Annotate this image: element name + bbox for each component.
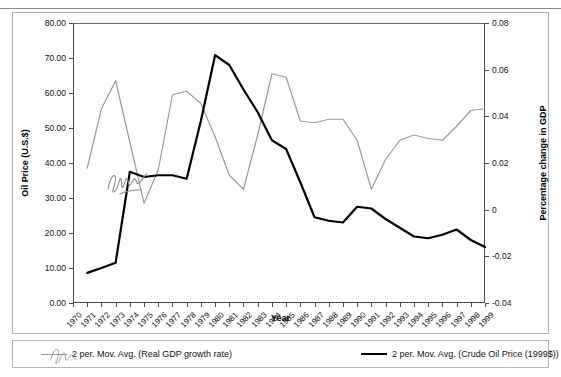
y-axis-left-tick xyxy=(69,128,73,129)
y-axis-right-tick-label: 0 xyxy=(492,205,497,215)
y-axis-right-tick-label: -0.02 xyxy=(492,251,511,261)
y-axis-left-tick-label: 10.00 xyxy=(45,263,66,273)
x-axis-tick xyxy=(386,303,387,307)
chart-figure: Oil Price (U.S.$) Percentage change in G… xyxy=(0,0,561,377)
x-axis-tick xyxy=(116,303,117,307)
legend-label-gdp: 2 per. Mov. Avg. (Real GDP growth rate) xyxy=(72,349,232,359)
y-axis-right-tick-label: 0.08 xyxy=(492,18,509,28)
series-line-gdp-growth xyxy=(87,74,485,204)
y-axis-right-tick-label: 0.06 xyxy=(492,65,509,75)
y-axis-right-tick xyxy=(485,70,489,71)
x-axis-tick xyxy=(457,303,458,307)
chart-legend: 2 per. Mov. Avg. (Real GDP growth rate) … xyxy=(12,340,549,368)
x-axis-tick xyxy=(87,303,88,307)
chart-plot-container: Oil Price (U.S.$) Percentage change in G… xyxy=(12,12,549,334)
x-axis-tick xyxy=(471,303,472,307)
y-axis-right-tick-label: 0.02 xyxy=(492,158,509,168)
x-axis-tick xyxy=(258,303,259,307)
legend-entry-gdp: 2 per. Mov. Avg. (Real GDP growth rate) xyxy=(41,349,232,359)
chart-title-cropped xyxy=(0,0,561,8)
y-axis-right-tick xyxy=(485,256,489,257)
y-axis-right-tick xyxy=(485,116,489,117)
y-axis-left-tick-label: 80.00 xyxy=(45,18,66,28)
y-axis-right-tick-label: 0.04 xyxy=(492,111,509,121)
x-axis-tick xyxy=(428,303,429,307)
x-axis-tick xyxy=(300,303,301,307)
series-svg xyxy=(73,23,485,303)
y-axis-right-tick xyxy=(485,163,489,164)
y-axis-left-tick-label: 30.00 xyxy=(45,193,66,203)
series-line-oil-price xyxy=(87,55,485,273)
y-axis-left-tick xyxy=(69,93,73,94)
legend-label-oil: 2 per. Mov. Avg. (Crude Oil Price (1999$… xyxy=(392,349,559,359)
x-axis-tick xyxy=(272,303,273,307)
x-axis-tick xyxy=(329,303,330,307)
top-divider-rule xyxy=(0,8,561,9)
y-axis-left-tick-label: 40.00 xyxy=(45,158,66,168)
x-axis-tick xyxy=(229,303,230,307)
x-axis-tick xyxy=(243,303,244,307)
x-axis-tick xyxy=(172,303,173,307)
x-axis-tick xyxy=(144,303,145,307)
y-axis-left-tick-label: 0.00 xyxy=(49,298,66,308)
y-axis-left-tick xyxy=(69,58,73,59)
x-axis-tick xyxy=(215,303,216,307)
x-axis-tick xyxy=(73,303,74,307)
y-axis-right-tick xyxy=(485,23,489,24)
y-axis-left-tick xyxy=(69,198,73,199)
x-axis-tick xyxy=(130,303,131,307)
legend-entry-oil: 2 per. Mov. Avg. (Crude Oil Price (1999$… xyxy=(361,349,559,359)
x-axis-tick xyxy=(357,303,358,307)
y-axis-left-tick xyxy=(69,233,73,234)
x-axis-tick xyxy=(442,303,443,307)
y-axis-left-tick xyxy=(69,268,73,269)
x-axis-tick xyxy=(201,303,202,307)
x-axis-tick xyxy=(187,303,188,307)
y-axis-left-tick-label: 50.00 xyxy=(45,123,66,133)
y-axis-left-tick-label: 20.00 xyxy=(45,228,66,238)
y-axis-left-tick xyxy=(69,23,73,24)
y-axis-left-tick-label: 70.00 xyxy=(45,53,66,63)
y-axis-right-tick-label: -0.04 xyxy=(492,298,511,308)
x-axis-tick xyxy=(343,303,344,307)
y-axis-right-tick xyxy=(485,210,489,211)
x-axis-tick xyxy=(485,303,486,307)
legend-line-swatch-gdp xyxy=(41,354,67,355)
x-axis-tick xyxy=(101,303,102,307)
y-axis-left-tick xyxy=(69,163,73,164)
y-axis-left-tick-label: 60.00 xyxy=(45,88,66,98)
x-axis-tick xyxy=(286,303,287,307)
x-axis-tick xyxy=(158,303,159,307)
y-axis-right-title: Percentage change in GDP xyxy=(538,105,548,220)
x-axis-tick xyxy=(315,303,316,307)
legend-line-swatch-oil xyxy=(361,353,387,355)
x-axis-tick xyxy=(414,303,415,307)
y-axis-left-title: Oil Price (U.S.$) xyxy=(20,129,30,197)
x-axis-tick xyxy=(400,303,401,307)
x-axis-tick xyxy=(371,303,372,307)
plot-area: 80.0070.0060.0050.0040.0030.0020.0010.00… xyxy=(73,23,485,303)
